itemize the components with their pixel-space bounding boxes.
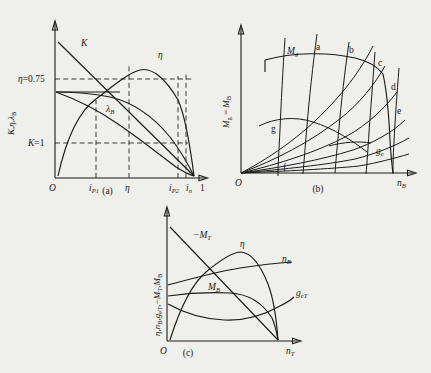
figure-b-caption: (b) [213, 184, 423, 194]
figure-a-label-eta: η [158, 50, 163, 60]
figure-c-caption: (c) [138, 348, 238, 358]
figure-b-label-e: e [397, 106, 401, 116]
figure-b-label-Mg: Mg [286, 46, 299, 57]
figure-b-label-d: d [391, 82, 396, 92]
curve-K [58, 42, 194, 176]
figure-a-label-lambdaB: λB [105, 104, 114, 115]
figure-c-axes [164, 207, 301, 344]
figure-b-axes [238, 25, 416, 176]
curve-nB [168, 262, 292, 285]
curve-minus-MT [170, 227, 278, 340]
figure-a-axes [52, 21, 207, 181]
figure-b-label-c: c [378, 58, 382, 68]
figure-c-x-axis-label: nT [286, 346, 296, 357]
figure-b: Mg a b c d e ge g f O nB Mg = MB (b) [213, 8, 431, 203]
figure-c-label-geT: geT [296, 288, 309, 299]
figure-a: K η λB η=0.75 K=1 K,η,λB O iP1 η iP2 in … [0, 0, 215, 200]
figure-a-guides [55, 65, 193, 178]
figure-a-y-axis-label: K,η,λB [6, 111, 17, 136]
figure-a-curves [56, 42, 194, 176]
figure-c: −MT η nB MB geT O nT η,nB,geT,−MT,MB (c) [80, 196, 360, 373]
figure-c-label-MB: MB [207, 282, 220, 293]
curve-lower [56, 92, 194, 176]
figure-c-curves [168, 227, 294, 340]
figure-b-label-a: a [316, 42, 321, 52]
figure-b-rays [241, 46, 409, 173]
curve-MB [168, 293, 278, 340]
figure-c-y-axis-label: η,nB,geT,−MT,MB [152, 273, 163, 336]
figure-a-label-K: K [80, 38, 88, 48]
curve-lambdaB [56, 92, 194, 176]
figure-b-ge-island [259, 119, 371, 152]
figure-b-label-g: g [271, 124, 276, 134]
figure-b-y-axis-label: Mg = MB [221, 95, 232, 129]
figure-c-label-nB: nB [282, 254, 291, 265]
figure-a-annotation-K1: K=1 [27, 138, 45, 148]
figure-b-label-b: b [349, 45, 354, 55]
figure-a-caption: (a) [0, 186, 215, 196]
figure-c-label-minus-MT: −MT [193, 230, 212, 241]
figure-b-label-ge: ge [376, 146, 384, 157]
figure-c-label-eta: η [240, 239, 245, 249]
figure-b-label-f: f [283, 163, 287, 173]
figure-a-annotation-eta075: η=0.75 [18, 74, 45, 84]
curve-eta [58, 70, 194, 176]
